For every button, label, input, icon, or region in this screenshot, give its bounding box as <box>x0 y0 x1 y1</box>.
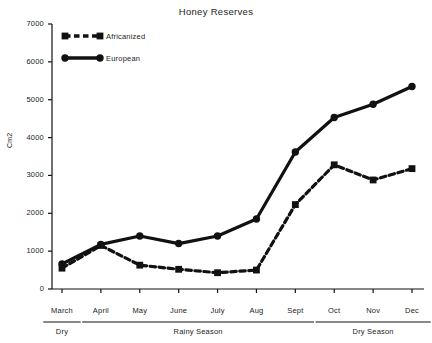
honey-reserves-chart: Honey Reserves Cm2 010002000300040005000… <box>0 0 432 343</box>
plot-area <box>0 0 432 343</box>
legend-label-european: European <box>106 54 140 63</box>
legend-symbols <box>61 33 103 62</box>
axes <box>48 24 424 293</box>
legend-label-africanized: Africanized <box>106 32 145 41</box>
data-series <box>58 83 415 276</box>
